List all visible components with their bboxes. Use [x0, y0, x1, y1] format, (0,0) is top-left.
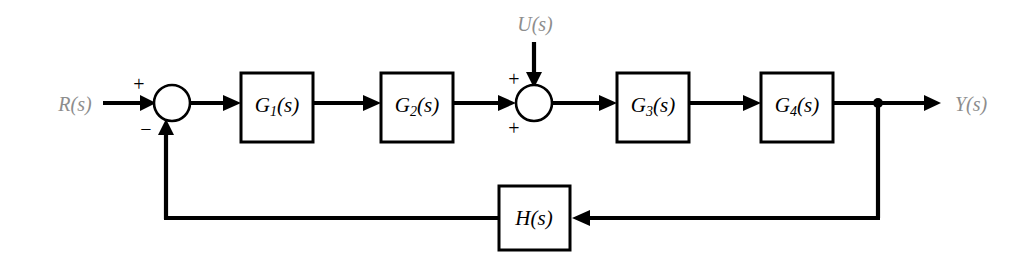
- arrowhead-g3-to-g4: [743, 95, 761, 111]
- label-block-g4-name: G: [775, 93, 790, 117]
- label-block-h-arg: (s): [531, 206, 553, 230]
- label-block-g2-name: G: [395, 93, 410, 117]
- label-block-g1: G1(s): [255, 95, 299, 119]
- arrowhead-feedback-to-h: [572, 210, 590, 226]
- block-diagram-canvas: R(s) U(s) Y(s) + − + + G1(s) G2(s) G3(s)…: [0, 0, 1011, 264]
- sign-sum1-input: +: [133, 74, 144, 94]
- summing-junction-2: [516, 85, 552, 121]
- sign-sum1-feedback: −: [140, 119, 151, 139]
- sign-sum2-disturbance: +: [508, 69, 519, 89]
- label-block-g3: G3(s): [631, 95, 675, 119]
- label-block-g1-name: G: [255, 93, 270, 117]
- label-block-h-name: H: [515, 206, 530, 230]
- label-block-g2: G2(s): [395, 95, 439, 119]
- label-output-signal: Y(s): [955, 94, 987, 114]
- label-block-g4: G4(s): [775, 95, 819, 119]
- arrowhead-sum1-to-g1: [223, 95, 241, 111]
- label-input-signal: R(s): [58, 94, 91, 114]
- label-block-g3-arg: (s): [653, 93, 675, 117]
- diagram-vector-layer: [0, 0, 1011, 264]
- label-block-g2-arg: (s): [417, 93, 439, 117]
- arrowhead-g2-to-sum2: [498, 95, 516, 111]
- label-disturbance-signal: U(s): [517, 14, 553, 34]
- label-block-g3-name: G: [631, 93, 646, 117]
- arrowhead-output: [924, 95, 941, 111]
- label-block-g1-arg: (s): [277, 93, 299, 117]
- arrowhead-g1-to-g2: [363, 95, 381, 111]
- sign-sum2-forward: +: [508, 118, 519, 138]
- label-block-h: H(s): [515, 208, 552, 232]
- arrowhead-sum2-to-g3: [599, 95, 617, 111]
- summing-junction-1: [154, 85, 190, 121]
- label-block-g4-arg: (s): [797, 93, 819, 117]
